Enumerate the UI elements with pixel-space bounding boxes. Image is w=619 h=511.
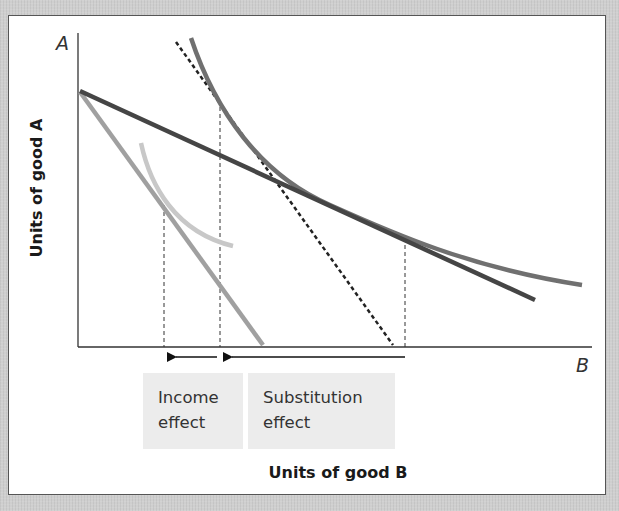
substitution-effect-line-2: effect: [263, 410, 395, 435]
x-axis-letter: B: [576, 354, 589, 376]
substitution-effect-label: Substitution effect: [248, 373, 395, 449]
higher-indifference-curve: [191, 38, 582, 285]
compensated-budget-line: [176, 42, 393, 345]
y-axis-letter: A: [54, 32, 69, 54]
new-budget-line: [80, 91, 535, 300]
income-effect-label: Income effect: [143, 373, 243, 449]
x-axis-label: Units of good B: [269, 463, 408, 482]
income-effect-line-1: Income: [158, 385, 243, 410]
income-effect-line-2: effect: [158, 410, 243, 435]
substitution-effect-line-1: Substitution: [263, 385, 395, 410]
y-axis-label: Units of good A: [27, 119, 46, 258]
